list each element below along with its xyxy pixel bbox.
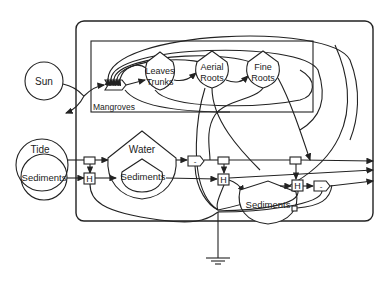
svg-text:Roots: Roots	[251, 73, 275, 83]
svg-text:-: -	[320, 182, 323, 191]
energy-diagram: Mangroves Sun Leaves Trunks Aerial Roots…	[0, 0, 385, 281]
fine-roots-storage: Fine Roots	[247, 51, 280, 88]
water-storage: Water Sediments	[108, 131, 176, 199]
flow-gate-1	[84, 157, 95, 164]
sun-source: Sun	[25, 62, 63, 100]
svg-text:Sediments: Sediments	[246, 199, 291, 210]
heat-sink-icon	[206, 212, 230, 264]
svg-text:H: H	[86, 174, 93, 184]
flow-gate-3	[290, 157, 301, 164]
h-interaction-2: H	[218, 174, 229, 185]
tide-source: Tide Sediments	[16, 139, 68, 200]
svg-text:Aerial: Aerial	[200, 62, 223, 72]
svg-text:Water: Water	[129, 144, 156, 155]
h-interaction-3: H	[292, 180, 303, 191]
x-interaction-1: -	[188, 156, 204, 166]
leaves-trunks-storage: Leaves Trunks	[145, 52, 175, 90]
svg-text:Sediments: Sediments	[121, 171, 166, 182]
svg-text:H: H	[294, 181, 301, 191]
svg-text:Leaves: Leaves	[145, 66, 175, 76]
svg-text:Sun: Sun	[35, 76, 53, 87]
bottom-sediments-storage: Sediments	[239, 181, 297, 224]
h-interaction-1: H	[84, 173, 95, 184]
x-interaction-2: -	[314, 181, 330, 191]
svg-text:Fine: Fine	[254, 62, 272, 72]
production-gate-icon	[105, 80, 126, 90]
svg-text:H: H	[220, 175, 227, 185]
mangroves-label: Mangroves	[93, 102, 135, 112]
svg-text:-: -	[194, 157, 197, 166]
flow-gate-2	[218, 157, 229, 164]
svg-text:Sediments: Sediments	[22, 172, 67, 183]
svg-text:Roots: Roots	[200, 73, 224, 83]
svg-text:Tide: Tide	[30, 144, 50, 155]
svg-text:Trunks: Trunks	[146, 77, 174, 87]
